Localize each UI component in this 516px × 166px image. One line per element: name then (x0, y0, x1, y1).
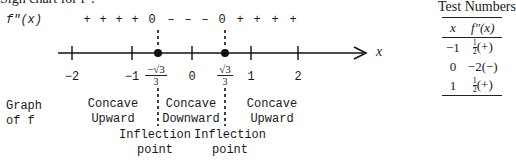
critical-point-value: √33 (217, 64, 233, 87)
test-number-row: 0−2(−) (442, 57, 502, 76)
critical-point-dot (221, 49, 229, 57)
critical-point-dot (154, 49, 162, 57)
graph-label-line1: Graph (6, 99, 42, 114)
axis-x-label: x (376, 44, 382, 60)
test-number-row: −112(+) (442, 38, 502, 58)
tick-label: 1 (247, 70, 254, 84)
inflection-point-label: Inflectionpoint (119, 128, 191, 158)
test-number-row: 112(+) (442, 76, 502, 96)
tick-label: −1 (125, 70, 139, 84)
concavity-region: ConcaveDownward (162, 97, 220, 127)
tick-label: 2 (294, 70, 301, 84)
graph-label-line2: of f (6, 114, 42, 129)
concavity-region: ConcaveUpward (88, 97, 138, 127)
inflection-point-label: Inflectionpoint (194, 128, 266, 158)
test-fpp-value: 12(+) (464, 76, 502, 96)
tick-label: −2 (65, 70, 79, 84)
test-fpp-value: 12(+) (464, 38, 502, 58)
concavity-region: ConcaveUpward (247, 97, 297, 127)
test-x-value: 1 (442, 76, 464, 96)
test-x-value: −1 (442, 38, 464, 58)
graph-row-label: Graph of f (6, 99, 42, 129)
header-x: x (442, 18, 464, 38)
critical-point-value: −√33 (145, 64, 167, 87)
test-numbers-table: x f″(x) −112(+)0−2(−)112(+) (442, 17, 502, 96)
tick-label: 0 (188, 70, 195, 84)
test-numbers-title: Test Numbers (438, 0, 516, 15)
header-fpp: f″(x) (464, 18, 502, 38)
test-fpp-value: −2(−) (464, 57, 502, 76)
test-x-value: 0 (442, 57, 464, 76)
